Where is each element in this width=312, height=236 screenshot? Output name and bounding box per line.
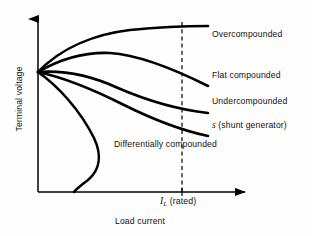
y-axis-label: Terminal voltage [14,49,24,149]
curve-label-overcompounded: Overcompounded [212,30,282,39]
shunt-text: (shunt generator) [218,120,286,130]
curve-label-undercompounded: Undercompounded [212,97,287,106]
x-axis-label: Load current [115,216,165,226]
curve-label-shunt-generator: s (shunt generator) [212,121,287,130]
figure-container: Overcompounded Flat compounded Undercomp… [0,0,312,236]
curve-label-differentially-compounded: Differentially compounded [114,140,217,149]
rated-current-label: IL (rated) [160,195,196,207]
current-subscript: L [163,200,167,207]
rated-suffix: (rated) [170,196,197,206]
curve-label-flat-compounded: Flat compounded [212,71,281,80]
shunt-symbol: s [212,120,216,130]
